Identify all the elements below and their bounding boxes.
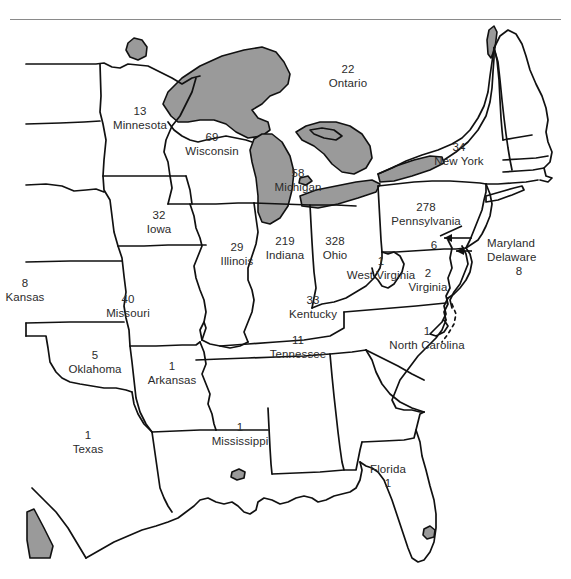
coast-atlantic-south [392, 298, 448, 412]
region-label-iowa: 32Iowa [147, 208, 172, 236]
region-count: 1 [148, 359, 197, 373]
region-name: Oklahoma [68, 362, 121, 376]
callout-label-maryland: Maryland [487, 236, 535, 250]
region-name: Illinois [221, 254, 254, 268]
border-canada-west [26, 63, 200, 84]
border-tx-la [152, 432, 172, 512]
border-ia-il [186, 176, 192, 204]
region-label-west-virginia: 1West Virginia [347, 254, 416, 282]
border-ks-ok [26, 322, 124, 323]
border-tx-east [132, 392, 152, 432]
region-count: 5 [68, 348, 121, 362]
gulf-of-california-water [27, 509, 53, 558]
region-name: Indiana [266, 248, 304, 262]
callout-name: Delaware [487, 250, 536, 264]
border-de-md-coast [448, 248, 472, 298]
region-name: Texas [73, 442, 104, 456]
border-al-fl [272, 442, 362, 474]
region-name: New York [434, 154, 483, 168]
region-label-illinois: 29Illinois [221, 240, 254, 268]
region-name: North Carolina [389, 338, 465, 352]
region-name: Iowa [147, 222, 172, 236]
region-count: 8 [6, 276, 45, 290]
region-name: Ontario [329, 76, 367, 90]
region-name: Arkansas [148, 373, 197, 387]
region-label-ontario: 22Ontario [329, 62, 367, 90]
border-ms-al [268, 408, 272, 474]
callout-label-delaware: Delaware [487, 250, 536, 264]
region-count: 11 [270, 333, 327, 347]
region-name: Ohio [323, 248, 348, 262]
region-count: 278 [391, 200, 461, 214]
region-count: 219 [266, 234, 304, 248]
border-mo-ar [130, 342, 200, 346]
region-count: 69 [185, 130, 238, 144]
callout-count: 8 [516, 264, 523, 278]
lake-superior [163, 47, 290, 138]
region-count: 1 [212, 420, 269, 434]
callout-name: Maryland [487, 236, 535, 250]
border-il-west [190, 204, 206, 340]
region-label-ohio: 328Ohio [323, 234, 348, 262]
border-ny-ma-ct [486, 180, 538, 184]
region-name: Minnesota [113, 118, 167, 132]
border-il-in [244, 203, 258, 342]
region-name: Kentucky [289, 307, 337, 321]
callout-count: 6 [431, 238, 438, 252]
border-nc-sc [366, 350, 424, 380]
region-name: Pennsylvania [391, 214, 461, 228]
region-label-new-york: 34New York [434, 140, 483, 168]
region-count: 34 [434, 140, 483, 154]
region-count: 32 [147, 208, 172, 222]
region-name: Virginia [409, 280, 448, 294]
lake-pontchartrain [231, 469, 245, 480]
border-ar-ms [200, 342, 216, 430]
callout-arrows [440, 226, 472, 255]
region-label-texas: 1Texas [73, 428, 104, 456]
region-label-wisconsin: 69Wisconsin [185, 130, 238, 158]
region-count: 1 [389, 324, 465, 338]
border-ga-fl [362, 412, 424, 442]
delmarva [450, 246, 468, 308]
region-label-kentucky: 33Kentucky [289, 293, 337, 321]
region-label-virginia: 2Virginia [409, 266, 448, 294]
region-name: Wisconsin [185, 144, 238, 158]
region-name: Michigan [275, 180, 322, 194]
region-label-florida: Florida1 [370, 462, 406, 490]
region-label-minnesota: 13Minnesota [113, 104, 167, 132]
region-label-pennsylvania: 278Pennsylvania [391, 200, 461, 228]
coast-florida [360, 430, 436, 562]
region-label-mississippi: 1Mississippi [212, 420, 269, 448]
border-wi-il [168, 203, 254, 204]
region-count: 1 [73, 428, 104, 442]
region-label-tennessee: 11Tennessee [270, 333, 327, 361]
region-name: Missouri [106, 306, 150, 320]
region-name: Kansas [6, 290, 45, 304]
lake-of-the-woods [126, 38, 147, 60]
callout-count-maryland: 6 [431, 238, 438, 252]
region-label-north-carolina: 1North Carolina [389, 324, 465, 352]
border-va-nc [344, 303, 446, 312]
border-al-ga [330, 354, 344, 470]
border-ia-mo [118, 245, 206, 246]
border-ct-ri-ny [503, 168, 544, 172]
callout-count-delaware: 8 [516, 264, 523, 278]
region-label-arkansas: 1Arkansas [148, 359, 197, 387]
border-ne-ks [26, 261, 122, 262]
region-count: 2 [409, 266, 448, 280]
region-name: Tennessee [270, 347, 327, 361]
border-nd-sd [26, 121, 100, 124]
region-label-missouri: 40Missouri [106, 292, 150, 320]
region-name: Mississippi [212, 434, 269, 448]
lake-okeechobee [423, 526, 435, 539]
region-count: 13 [113, 104, 167, 118]
border-sd-ne [26, 184, 104, 192]
region-label-indiana: 219Indiana [266, 234, 304, 262]
region-count: 29 [221, 240, 254, 254]
region-count: 22 [329, 62, 367, 76]
region-label-michigan: 58Michigan [275, 166, 322, 194]
coast-gulf [86, 462, 362, 558]
region-name: West Virginia [347, 268, 416, 282]
border-ny-east [494, 48, 512, 170]
map-figure: 22Ontario13Minnesota69Wisconsin58Michiga… [0, 0, 571, 579]
